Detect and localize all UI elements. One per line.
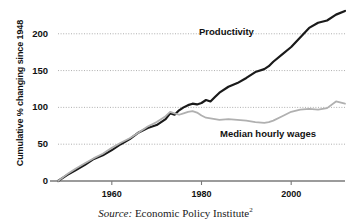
source-note: Source: Economic Policy Institute2: [0, 206, 351, 219]
series-label-productivity: Productivity: [199, 26, 254, 37]
source-footnote: 2: [249, 206, 253, 214]
plot-area: [0, 0, 351, 224]
chart-figure: Cumulative % changing since 1948 0501001…: [0, 0, 351, 224]
series-label-median-hourly-wages: Median hourly wages: [220, 128, 316, 139]
source-text: Economic Policy Institute: [135, 207, 249, 219]
source-label: Source:: [98, 207, 132, 219]
series-line-median-hourly-wages: [58, 101, 345, 181]
